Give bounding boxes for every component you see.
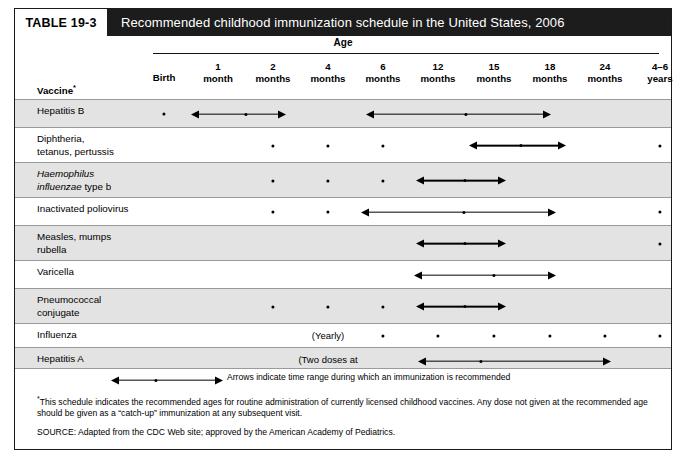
dose-dot — [381, 179, 384, 182]
table-row: Inactivated poliovirus — [15, 197, 671, 225]
arrow-head-right-icon — [278, 110, 286, 118]
legend-text: Arrows indicate time range during which … — [227, 372, 510, 382]
arrow-head-right-icon — [543, 110, 551, 118]
table-row: Diphtheria, tetanus, pertussis — [15, 127, 671, 162]
table-title: Recommended childhood immunization sched… — [107, 9, 564, 36]
footnote-source: SOURCE: Adapted from the CDC Web site; a… — [37, 427, 655, 438]
dose-dot — [326, 179, 329, 182]
table-row: Influenza(Yearly) — [15, 323, 671, 347]
arrow-midpoint-dot — [463, 242, 466, 245]
arrow-head-right-icon — [215, 376, 223, 384]
vaccine-column-header-text: Vaccine — [37, 85, 73, 96]
dose-dot — [271, 179, 274, 182]
vaccine-name-label: Varicella — [37, 266, 74, 279]
column-header-15months: 15 months — [477, 61, 512, 84]
arrow-midpoint-dot — [464, 112, 467, 115]
column-header-birth: Birth — [153, 72, 176, 84]
table-row: Measles, mumps rubella — [15, 225, 671, 260]
vaccine-header-footnote-marker: * — [73, 83, 76, 92]
arrow-shaft — [421, 180, 501, 182]
arrow-midpoint-dot — [519, 144, 522, 147]
range-arrow — [191, 110, 286, 119]
vaccine-name-label: Pneumococcal conjugate — [37, 294, 101, 319]
dose-dot — [658, 144, 661, 147]
arrow-midpoint-dot — [462, 210, 465, 213]
column-header-2months: 2 months — [256, 61, 291, 84]
footnote-schedule-note-text: This schedule indicates the recommended … — [37, 397, 648, 418]
dose-dot — [603, 334, 606, 337]
column-header-4months: 4 months — [311, 61, 346, 84]
dose-dot — [381, 144, 384, 147]
dose-dot — [658, 242, 661, 245]
vaccine-name-label: Diphtheria, tetanus, pertussis — [37, 133, 114, 158]
arrow-shaft — [423, 360, 606, 362]
range-arrow — [361, 208, 556, 217]
arrow-head-right-icon — [498, 303, 506, 311]
table-title-bar: TABLE 19-3 Recommended childhood immuniz… — [15, 9, 671, 36]
arrow-head-right-icon — [548, 271, 556, 279]
dose-dot — [548, 334, 551, 337]
dose-dot — [381, 305, 384, 308]
arrow-head-right-icon — [603, 357, 611, 365]
column-header-12months: 12 months — [421, 61, 456, 84]
arrow-shaft — [366, 211, 551, 213]
vaccine-name-label: Inactivated poliovirus — [37, 203, 129, 216]
arrow-midpoint-dot — [492, 273, 495, 276]
arrow-shaft — [196, 113, 281, 115]
arrow-midpoint-dot — [463, 179, 466, 182]
range-arrow — [366, 110, 551, 119]
vaccine-name-label: Influenza — [37, 329, 77, 342]
age-header-group: Age — [15, 36, 671, 52]
range-arrow — [418, 357, 611, 366]
vaccine-name-label: Hepatitis B — [37, 105, 84, 118]
column-header-1month: 1 month — [203, 61, 233, 84]
table-number-label: TABLE 19-3 — [15, 9, 107, 36]
vaccine-name-label: Haemophilus influenzae type b — [37, 168, 111, 193]
dose-dot — [326, 210, 329, 213]
dose-dot — [492, 334, 495, 337]
arrow-shaft — [421, 306, 501, 308]
arrow-midpoint-dot — [154, 378, 157, 381]
column-header-24months: 24 months — [588, 61, 623, 84]
dose-dot — [162, 112, 165, 115]
arrow-midpoint-dot — [479, 359, 482, 362]
range-arrow — [416, 302, 506, 311]
range-arrow — [469, 141, 566, 150]
footnote-schedule-note: *This schedule indicates the recommended… — [37, 393, 655, 419]
dose-dot — [658, 334, 661, 337]
age-header-label: Age — [15, 37, 671, 48]
arrow-shaft — [419, 274, 551, 276]
vaccine-name-label: Measles, mumps rubella — [37, 231, 111, 256]
column-header-18months: 18 months — [533, 61, 568, 84]
arrow-shaft — [116, 379, 218, 381]
dose-dot — [271, 210, 274, 213]
dose-dot — [271, 144, 274, 147]
vaccine-name-italic-part: Haemophilus influenzae — [37, 168, 94, 192]
cell-note-text: (Yearly) — [312, 330, 344, 342]
dose-dot — [326, 305, 329, 308]
immunization-schedule-table: TABLE 19-3 Recommended childhood immuniz… — [14, 8, 672, 450]
arrow-midpoint-dot — [463, 305, 466, 308]
table-row: Hepatitis B — [15, 99, 671, 127]
vaccine-column-header: Vaccine* — [37, 83, 76, 96]
vaccine-name-label: Hepatitis A — [37, 353, 84, 366]
column-header-6months: 6 months — [366, 61, 401, 84]
arrow-head-right-icon — [498, 177, 506, 185]
dose-dot — [326, 144, 329, 147]
dose-dot — [658, 210, 661, 213]
table-row: Varicella — [15, 260, 671, 288]
arrow-head-right-icon — [558, 142, 566, 150]
dose-dot — [271, 305, 274, 308]
table-row: Pneumococcal conjugate — [15, 288, 671, 323]
arrow-shaft — [474, 145, 561, 147]
footnotes-section: Arrows indicate time range during which … — [15, 368, 671, 449]
column-header-4to6years: 4–6 years — [647, 61, 672, 84]
arrow-head-right-icon — [548, 208, 556, 216]
dose-dot — [436, 334, 439, 337]
table-row: Haemophilus influenzae type b — [15, 162, 671, 197]
arrow-head-right-icon — [498, 240, 506, 248]
range-arrow — [414, 271, 556, 280]
range-arrow — [416, 176, 506, 185]
arrow-midpoint-dot — [244, 112, 247, 115]
legend-range-arrow — [111, 376, 223, 385]
